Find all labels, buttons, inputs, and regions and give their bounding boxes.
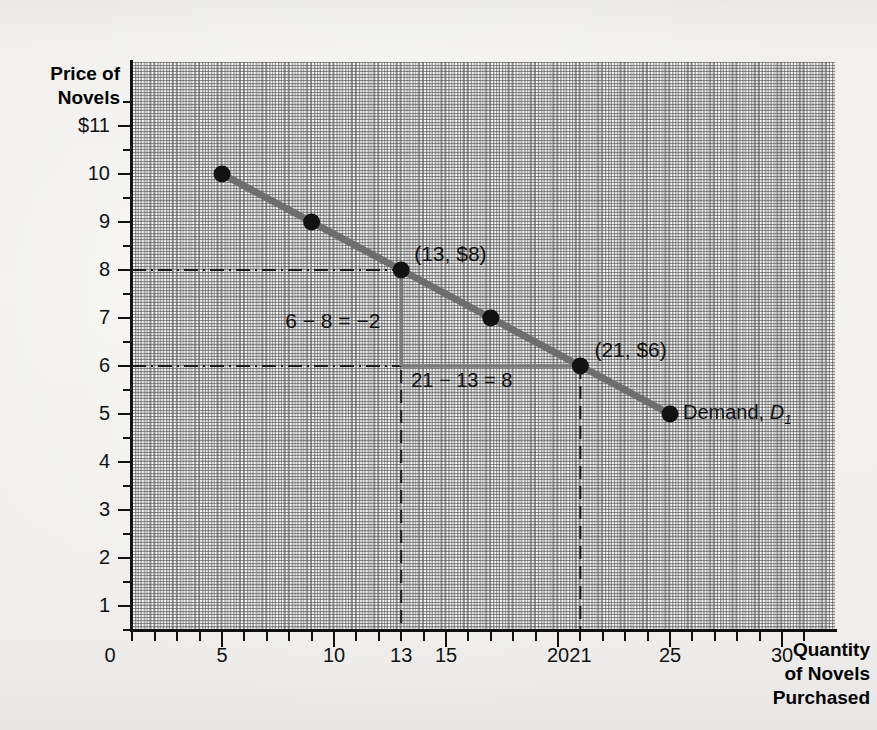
data-point-17-7 — [482, 310, 499, 327]
data-point-21-6 — [572, 358, 589, 375]
annotation-point-13-8: (13, $8) — [414, 243, 486, 264]
data-point-9-9 — [303, 214, 320, 231]
series-label-text: Demand, — [683, 401, 770, 423]
series-label-symbol: D — [770, 401, 784, 423]
demand-curve-figure: Price of Novels Quantity of Novels Purch… — [0, 0, 877, 730]
annotation-run: 21 − 13 = 8 — [411, 370, 512, 391]
annotation-rise: 6 − 8 = −2 — [285, 310, 380, 331]
series-label-subscript: 1 — [784, 412, 791, 427]
data-point-5-10 — [214, 166, 231, 183]
curve-overlay — [0, 0, 877, 730]
annotation-point-21-6: (21, $6) — [594, 339, 666, 360]
data-point-25-5 — [662, 406, 679, 423]
data-point-13-8 — [393, 262, 410, 279]
series-label-demand: Demand, D1 — [683, 401, 791, 427]
